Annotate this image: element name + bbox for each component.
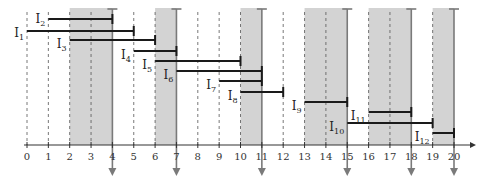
tick-label: 12 bbox=[277, 151, 290, 162]
time-axis: 01234567891011121314151617181920 bbox=[24, 142, 476, 162]
down-arrow-icon bbox=[172, 168, 180, 176]
interval-label: I1 bbox=[14, 26, 24, 42]
interval-label: I3 bbox=[57, 37, 67, 53]
tick-label: 4 bbox=[109, 151, 115, 162]
tick-label: 2 bbox=[67, 151, 73, 162]
shaded-region bbox=[305, 8, 348, 145]
down-arrow-icon bbox=[450, 168, 458, 176]
tick-label: 9 bbox=[216, 151, 222, 162]
tick-label: 13 bbox=[298, 151, 311, 162]
tick-label: 10 bbox=[234, 151, 247, 162]
shaded-region bbox=[369, 8, 412, 145]
shaded-region bbox=[433, 8, 454, 145]
tick-label: 1 bbox=[45, 151, 51, 162]
tick-label: 16 bbox=[362, 151, 375, 162]
tick-label: 18 bbox=[405, 151, 418, 162]
interval-label: I5 bbox=[142, 58, 152, 74]
interval-label: I4 bbox=[121, 48, 131, 64]
tick-label: 20 bbox=[448, 151, 461, 162]
shaded-region bbox=[241, 8, 262, 145]
tick-label: 17 bbox=[384, 151, 397, 162]
tick-label: 7 bbox=[173, 151, 179, 162]
interval-label: I2 bbox=[36, 12, 46, 28]
tick-label: 3 bbox=[88, 151, 94, 162]
tick-label: 0 bbox=[24, 151, 30, 162]
tick-label: 11 bbox=[255, 151, 268, 162]
down-arrow-icon bbox=[407, 168, 415, 176]
interval-label: I8 bbox=[228, 89, 238, 105]
interval-diagram: 01234567891011121314151617181920 I1I2I3I… bbox=[0, 0, 479, 184]
down-arrow-icon bbox=[258, 168, 266, 176]
axis-arrow-icon bbox=[470, 142, 476, 148]
tick-label: 8 bbox=[195, 151, 201, 162]
down-arrow-icon bbox=[343, 168, 351, 176]
diagram-canvas: 01234567891011121314151617181920 I1I2I3I… bbox=[0, 0, 479, 184]
down-arrow-icon bbox=[108, 168, 116, 176]
tick-label: 14 bbox=[320, 151, 333, 162]
tick-label: 15 bbox=[341, 151, 354, 162]
shaded-region bbox=[70, 8, 113, 145]
tick-label: 5 bbox=[131, 151, 137, 162]
tick-label: 6 bbox=[152, 151, 158, 162]
tick-label: 19 bbox=[426, 151, 439, 162]
interval-label: I11 bbox=[351, 109, 366, 125]
interval-label: I7 bbox=[206, 78, 216, 94]
interval-label: I12 bbox=[415, 130, 430, 146]
interval-label: I9 bbox=[292, 99, 302, 115]
